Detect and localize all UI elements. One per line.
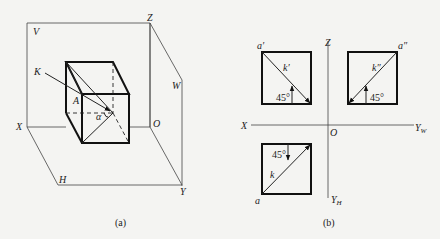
angle-front: 45° [276,92,290,103]
label-z: Z [325,37,331,48]
label-a-point: A [72,95,80,106]
w-plane [150,23,182,186]
label-a: a [255,195,260,206]
label-y: Y [180,186,187,197]
angle-top: 45° [272,149,286,160]
label-k-prime: k′ [283,62,290,73]
cube [45,62,129,143]
label-o: O [330,127,337,138]
front-view: a′ k′ 45° [257,40,311,104]
label-k-double-prime: k″ [372,62,381,73]
projection-diagram: V Z W K A α X O H Y (a) Z X O YW YH a′ k… [0,0,440,239]
v-plane [27,23,150,127]
h-plane [27,127,182,185]
top-view: a k 45° [255,144,311,206]
label-o: O [153,118,160,129]
caption-b: (b) [323,217,335,229]
label-v: V [33,26,41,37]
figure-a-isometric: V Z W K A α X O H Y (a) [15,12,187,229]
alpha-arc [104,113,108,117]
label-a-double-prime: a″ [398,40,408,51]
side-view: a″ k″ 45° [348,40,408,104]
angle-side: 45° [370,92,384,103]
label-k: K [33,66,42,77]
label-x: X [15,121,23,132]
label-z: Z [147,12,153,23]
figure-b-orthographic: Z X O YW YH a′ k′ 45° a″ k″ 45° a [240,37,428,229]
label-yh: YH [331,194,343,207]
label-h: H [58,174,67,185]
label-a-prime: a′ [257,40,265,51]
label-alpha: α [96,111,102,122]
label-k: k [270,169,275,180]
label-w: W [172,80,182,91]
caption-a: (a) [115,217,126,229]
label-x: X [240,120,248,131]
label-yw: YW [415,122,428,135]
